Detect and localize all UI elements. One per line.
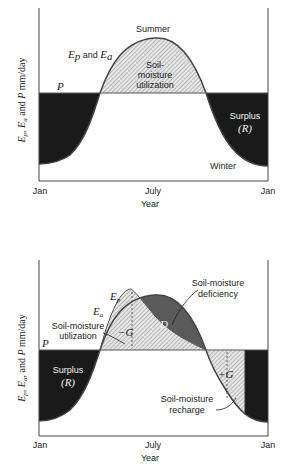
d-label: D	[159, 318, 168, 330]
x-tick-july: July	[145, 440, 162, 450]
surplus-region-right	[245, 350, 268, 422]
y-axis-label: Ep, Ea, and P mm/day	[16, 314, 29, 403]
surplus-r-label: (R)	[61, 376, 75, 389]
x-tick-july: July	[145, 186, 162, 196]
surplus-r-label: (R)	[238, 122, 252, 135]
ep-ea-label: Ep and Ea	[67, 48, 113, 62]
minus-g-label: −G	[118, 326, 133, 338]
utilization-label-1: Soil-	[146, 60, 164, 70]
soil-moisture-recharge-region	[206, 350, 245, 414]
utilization-label-2: utilization	[59, 331, 97, 341]
x-tick-jan-start: Jan	[33, 186, 48, 196]
ea-label: Ea	[92, 305, 104, 319]
surplus-label: Surplus	[53, 365, 84, 375]
surplus-label: Surplus	[230, 111, 261, 121]
utilization-label-1: Soil-moisture	[52, 321, 105, 331]
ep-label: Ep	[109, 290, 121, 304]
summer-label: Summer	[136, 24, 170, 34]
deficiency-label-1: Soil-moisture	[192, 278, 245, 288]
top-diagram: Summer Ep and Ea P Soil- moisture utiliz…	[16, 8, 275, 209]
water-balance-diagrams: Summer Ep and Ea P Soil- moisture utiliz…	[0, 0, 288, 469]
plus-g-label: +G	[218, 368, 233, 380]
recharge-label-1: Soil-moisture	[161, 394, 214, 404]
utilization-label-3: utilization	[136, 80, 174, 90]
winter-label: Winter	[210, 161, 236, 171]
bottom-diagram: Soil-moisture deficiency Ep Ea D Soil-mo…	[16, 260, 275, 463]
x-axis-label: Year	[141, 199, 159, 209]
utilization-label-2: moisture	[138, 70, 173, 80]
surplus-region-left	[39, 93, 100, 164]
deficiency-label-2: deficiency	[198, 289, 239, 299]
x-tick-jan-end: Jan	[261, 440, 276, 450]
y-axis-label: Ep, Ea and P mm/day	[16, 57, 29, 143]
x-tick-jan-start: Jan	[33, 440, 48, 450]
x-tick-jan-end: Jan	[261, 186, 276, 196]
p-label: P	[41, 337, 49, 349]
p-label: P	[56, 80, 64, 92]
recharge-label-2: recharge	[169, 405, 205, 415]
x-axis-label: Year	[141, 453, 159, 463]
